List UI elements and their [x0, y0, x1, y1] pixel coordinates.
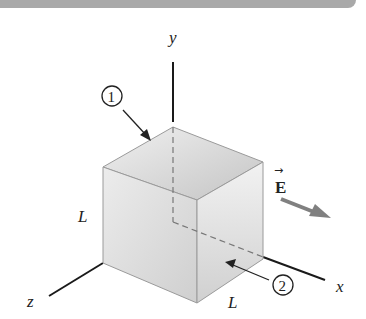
electric-field: → E: [274, 164, 331, 218]
x-axis-label: x: [335, 277, 344, 296]
cube-diagram: y x z L L 1 2 → E: [0, 0, 366, 319]
side-label-left: L: [77, 207, 87, 226]
field-label: E: [275, 178, 286, 197]
x-axis: [263, 257, 325, 280]
field-arrow-head-icon: [309, 204, 331, 218]
face-marker-1-label: 1: [108, 89, 116, 105]
y-axis-label: y: [167, 28, 177, 47]
z-axis-label: z: [26, 292, 34, 311]
z-axis: [49, 263, 103, 296]
field-vector-arrow: →: [274, 164, 283, 177]
side-label-bottom: L: [227, 293, 237, 312]
face-marker-2-label: 2: [279, 278, 287, 294]
field-arrow-shaft: [281, 199, 314, 212]
face-marker-1: 1: [102, 86, 151, 141]
